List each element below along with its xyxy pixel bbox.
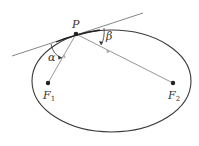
label-f1-main: F <box>42 89 51 102</box>
label-f1: F1 <box>42 89 55 103</box>
label-p: P <box>71 18 80 31</box>
point-p <box>74 32 79 37</box>
ellipse <box>32 30 191 132</box>
focus-f1 <box>46 81 50 85</box>
focus-f2 <box>171 81 175 85</box>
ellipse-diagram: P α β F1 F2 <box>0 0 199 146</box>
label-f1-sub: 1 <box>51 95 55 103</box>
label-alpha: α <box>48 51 56 64</box>
line-p-f2 <box>76 34 173 83</box>
label-f2: F2 <box>167 89 180 103</box>
label-f2-sub: 2 <box>176 95 180 103</box>
label-beta: β <box>105 30 112 43</box>
label-f2-main: F <box>167 89 176 102</box>
